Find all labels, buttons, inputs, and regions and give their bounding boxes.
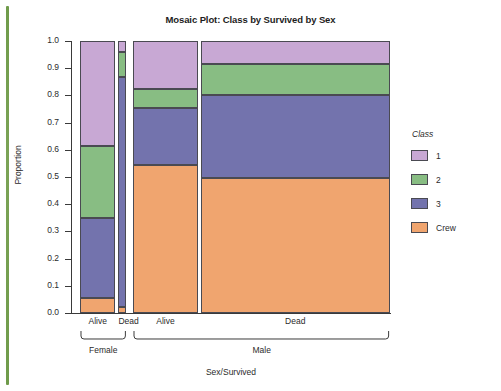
- mosaic-tile: [80, 298, 115, 313]
- x-axis-group-label: Female: [80, 345, 126, 355]
- mosaic-tile: [80, 41, 115, 146]
- mosaic-tile: [80, 218, 115, 299]
- mosaic-tiles-container: [80, 41, 390, 313]
- mosaic-tile: [133, 108, 197, 165]
- legend-swatch: [411, 222, 428, 233]
- y-axis-tick: [65, 286, 71, 287]
- y-axis-tick: [65, 68, 71, 69]
- y-axis-tick-label: 0.2: [33, 254, 59, 263]
- y-axis-tick-label: 0.3: [33, 226, 59, 235]
- y-axis-title: Proportion: [13, 125, 23, 205]
- mosaic-column: [80, 41, 115, 313]
- legend-swatch: [411, 174, 428, 185]
- y-axis-tick: [65, 231, 71, 232]
- y-axis-line: [71, 41, 72, 313]
- y-axis-tick: [65, 259, 71, 260]
- y-axis-tick: [65, 123, 71, 124]
- mosaic-tile: [201, 178, 390, 313]
- legend-entry: Crew: [411, 218, 491, 237]
- mosaic-tile: [80, 146, 115, 218]
- mosaic-tile: [201, 64, 390, 95]
- y-axis-tick-label: 0.0: [33, 308, 59, 317]
- y-axis-tick: [65, 150, 71, 151]
- group-brace: [80, 331, 126, 340]
- legend-entries: 123Crew: [411, 146, 491, 237]
- legend-label: 2: [436, 175, 441, 185]
- legend-swatch: [411, 150, 428, 161]
- mosaic-tile: [118, 52, 126, 76]
- legend-entry: 3: [411, 194, 491, 213]
- mosaic-tile: [118, 77, 126, 307]
- y-axis-tick-label: 1.0: [33, 36, 59, 45]
- mosaic-tile: [201, 95, 390, 177]
- y-axis-tick-label: 0.1: [33, 281, 59, 290]
- legend-label: 3: [436, 199, 441, 209]
- y-axis-tick-label: 0.4: [33, 199, 59, 208]
- legend: Class 123Crew: [411, 129, 491, 242]
- legend-entry: 1: [411, 146, 491, 165]
- mosaic-tile: [201, 41, 390, 64]
- x-axis-title: Sex/Survived: [71, 367, 391, 377]
- chart-title: Mosaic Plot: Class by Survived by Sex: [0, 14, 501, 25]
- mosaic-tile: [133, 41, 197, 89]
- y-axis-tick: [65, 41, 71, 42]
- y-axis-tick-label: 0.9: [33, 63, 59, 72]
- legend-label: 1: [436, 151, 441, 161]
- mosaic-column: [133, 41, 197, 313]
- y-axis-tick-label: 0.5: [33, 172, 59, 181]
- y-axis-tick: [65, 95, 71, 96]
- group-brace: [133, 331, 390, 340]
- mosaic-column: [201, 41, 390, 313]
- y-axis-tick: [65, 204, 71, 205]
- mosaic-plot-figure: Mosaic Plot: Class by Survived by Sex Pr…: [0, 0, 501, 391]
- y-axis-tick: [65, 177, 71, 178]
- x-axis-tick-label: Alive: [80, 317, 115, 326]
- x-axis-tick-label: Dead: [118, 317, 126, 326]
- mosaic-column: [118, 41, 126, 313]
- mosaic-tile: [133, 165, 197, 313]
- mosaic-tile: [118, 41, 126, 52]
- x-axis-tick-label: Dead: [201, 317, 390, 326]
- x-axis-group-label: Male: [133, 345, 390, 355]
- legend-entry: 2: [411, 170, 491, 189]
- y-axis-tick-label: 0.8: [33, 90, 59, 99]
- x-axis-line: [71, 313, 391, 314]
- x-axis-tick-label: Alive: [133, 317, 197, 326]
- y-axis-tick-label: 0.6: [33, 145, 59, 154]
- legend-title: Class: [411, 129, 491, 139]
- mosaic-tile: [133, 89, 197, 108]
- legend-label: Crew: [436, 223, 456, 233]
- legend-swatch: [411, 198, 428, 209]
- y-axis-tick-label: 0.7: [33, 118, 59, 127]
